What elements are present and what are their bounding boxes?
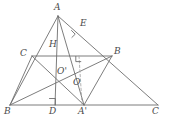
segment-A-to-A-prime [58,16,84,105]
geometry-diagram: A E H C B O' O B D A' C [0,0,169,123]
point-label-O: O [73,78,80,87]
segment-A-prime-to-B2 [84,56,112,105]
figure-strokes [10,16,158,105]
point-label-B-bottom-left: B [4,107,11,116]
right-angle-marker-at-D [50,99,56,105]
point-label-D: D [49,107,56,116]
right-angle-marker-at-E [72,31,76,38]
segment-side-A-C [58,16,158,105]
segment-altitude-A-D [55,16,58,105]
point-label-A-prime: A' [78,107,87,116]
point-label-E: E [80,19,87,28]
point-label-B-right: B [114,47,121,56]
point-label-O-prime: O' [57,67,67,76]
point-label-A: A [54,3,61,12]
right-angle-marker-on-midline [76,56,81,61]
segment-B-to-C-left [10,56,32,105]
segment-side-B-A [10,16,58,105]
point-label-H: H [49,40,57,49]
point-label-C-left: C [20,49,27,58]
point-label-C-bottom-right: C [152,107,159,116]
segment-cevian-B-B2 [10,56,112,105]
